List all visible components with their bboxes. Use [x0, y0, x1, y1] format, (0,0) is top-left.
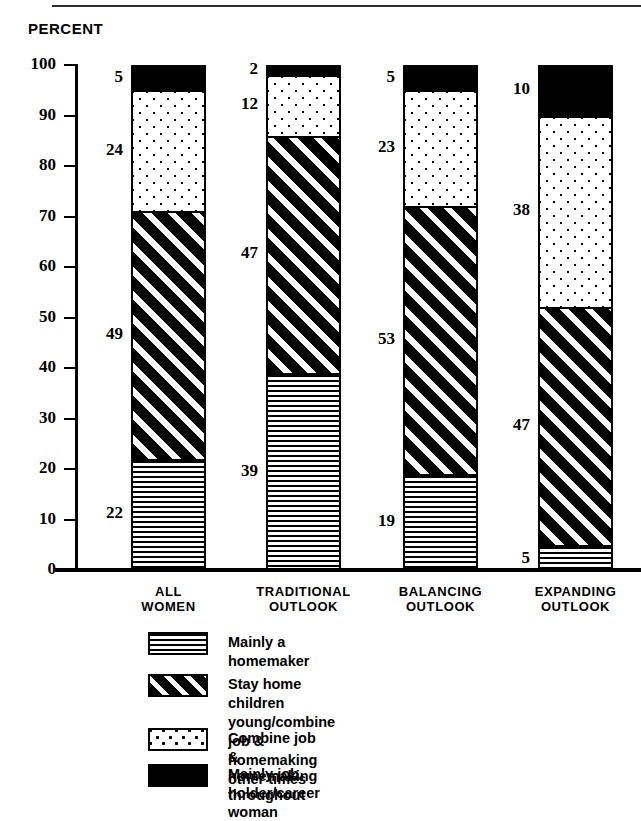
y-tick-mark — [64, 569, 75, 571]
y-tick-label: 90 — [8, 105, 56, 125]
y-axis-line — [75, 64, 78, 572]
y-tick-label: 0 — [8, 559, 56, 579]
category-label-line: OUTLOOK — [371, 599, 511, 614]
legend-label: Mainly job holder/career woman — [228, 765, 320, 821]
legend-swatch — [148, 674, 208, 697]
y-tick-mark — [64, 367, 75, 369]
category-label-line: WOMEN — [99, 599, 239, 614]
bar-value-label: 39 — [214, 461, 258, 481]
category-label-line: TRADITIONAL — [234, 584, 374, 599]
category-label: BALANCINGOUTLOOK — [371, 584, 511, 614]
bar-value-label: 10 — [486, 79, 530, 99]
y-tick-label: 60 — [8, 256, 56, 276]
y-tick-mark — [64, 64, 75, 66]
legend-swatch — [148, 728, 208, 751]
bar-segment — [133, 65, 204, 90]
bar-value-label: 19 — [351, 511, 395, 531]
legend-label: Mainly a homemaker — [228, 633, 309, 671]
y-tick-label: 40 — [8, 357, 56, 377]
bar-segment — [133, 459, 204, 570]
bar-value-label: 23 — [351, 137, 395, 157]
bar-segment — [133, 211, 204, 458]
bar-value-label: 49 — [79, 324, 123, 344]
y-tick-mark — [64, 266, 75, 268]
y-tick-label: 100 — [8, 54, 56, 74]
legend-swatch — [148, 764, 208, 787]
category-label: ALLWOMEN — [99, 584, 239, 614]
bar-column — [266, 65, 341, 570]
category-label-line: ALL — [99, 584, 239, 599]
category-label: TRADITIONALOUTLOOK — [234, 584, 374, 614]
bar-value-label: 5 — [486, 548, 530, 568]
bar-segment — [268, 136, 339, 373]
bar-segment — [540, 545, 611, 570]
bar-column — [131, 65, 206, 570]
bar-segment — [540, 307, 611, 544]
y-tick-mark — [64, 317, 75, 319]
bar-value-label: 2 — [214, 59, 258, 79]
category-label: EXPANDINGOUTLOOK — [506, 584, 641, 614]
category-label-line: BALANCING — [371, 584, 511, 599]
bar-value-label: 53 — [351, 329, 395, 349]
y-tick-mark — [64, 216, 75, 218]
y-tick-label: 30 — [8, 408, 56, 428]
bar-value-label: 5 — [351, 67, 395, 87]
bar-value-label: 22 — [79, 503, 123, 523]
y-tick-mark — [64, 165, 75, 167]
bar-segment — [268, 373, 339, 570]
bar-segment — [405, 90, 476, 206]
bar-value-label: 5 — [79, 67, 123, 87]
category-label-line: OUTLOOK — [506, 599, 641, 614]
bar-segment — [268, 75, 339, 136]
y-tick-label: 50 — [8, 307, 56, 327]
y-tick-label: 70 — [8, 206, 56, 226]
bar-segment — [540, 116, 611, 308]
bar-segment — [133, 90, 204, 211]
y-tick-mark — [64, 468, 75, 470]
bar-segment — [405, 474, 476, 570]
legend-swatch — [148, 632, 208, 655]
y-tick-label: 20 — [8, 458, 56, 478]
bar-value-label: 12 — [214, 94, 258, 114]
y-tick-label: 10 — [8, 509, 56, 529]
y-tick-label: 80 — [8, 155, 56, 175]
bar-segment — [405, 206, 476, 474]
category-label-line: OUTLOOK — [234, 599, 374, 614]
bar-value-label: 47 — [214, 243, 258, 263]
category-label-line: EXPANDING — [506, 584, 641, 599]
y-tick-mark — [64, 115, 75, 117]
bar-value-label: 38 — [486, 200, 530, 220]
bar-column — [403, 65, 478, 570]
bar-segment — [540, 65, 611, 116]
bar-segment — [405, 65, 476, 90]
y-tick-mark — [64, 418, 75, 420]
bar-value-label: 47 — [486, 415, 530, 435]
y-tick-mark — [64, 519, 75, 521]
bar-column — [538, 65, 613, 570]
bar-segment — [268, 65, 339, 75]
bar-value-label: 24 — [79, 140, 123, 160]
